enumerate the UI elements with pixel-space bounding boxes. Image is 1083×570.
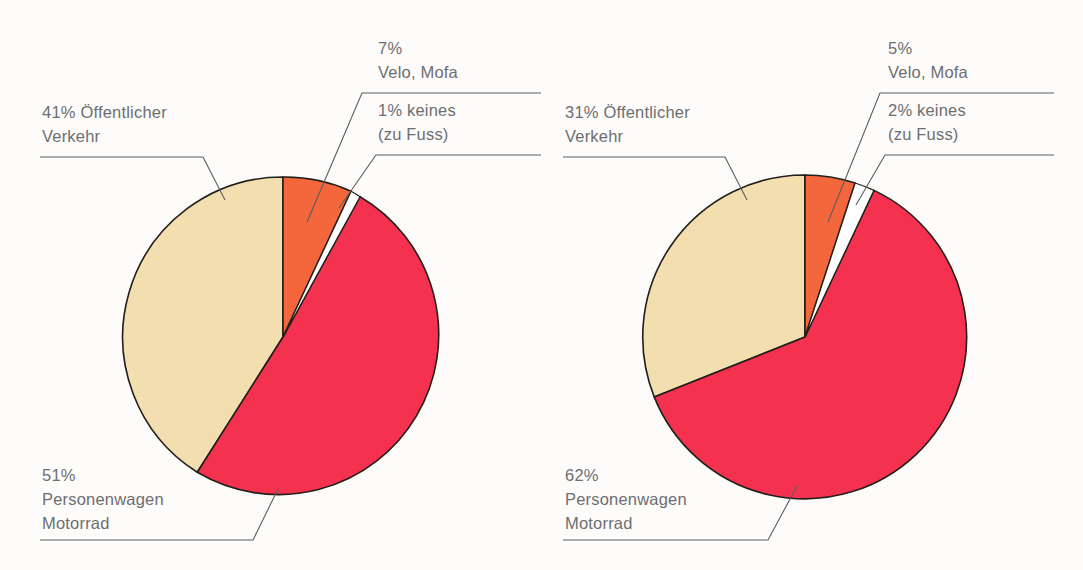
- figure-canvas: 41% Öffentlicher Verkehr 7% Velo, Mofa 1…: [0, 0, 1083, 570]
- label-personenwagen-name-right: Personenwagen: [565, 490, 687, 508]
- pie-chart-left: 41% Öffentlicher Verkehr 7% Velo, Mofa 1…: [40, 39, 541, 540]
- label-keines-name-right: (zu Fuss): [888, 125, 959, 143]
- label-velo-mofa-name-left: Velo, Mofa: [378, 63, 459, 81]
- label-oeffentlicher-verkehr-pct-left: 41% Öffentlicher: [42, 103, 167, 121]
- leader-line-keines-left: [339, 155, 541, 208]
- label-velo-mofa-pct-left: 7%: [378, 39, 402, 57]
- callout-keines-zu-fuss-right: 2% keines (zu Fuss): [856, 101, 1054, 205]
- label-keines-pct-left: 1% keines: [378, 101, 456, 119]
- leader-line-oeffentlicher-verkehr-left: [40, 157, 225, 200]
- label-personenwagen-pct-left: 51%: [42, 466, 76, 484]
- leader-line-oeffentlicher-verkehr-right: [563, 157, 747, 200]
- label-oeffentlicher-verkehr-pct-right: 31% Öffentlicher: [565, 103, 690, 121]
- label-velo-mofa-pct-right: 5%: [888, 39, 912, 57]
- callout-oeffentlicher-verkehr-right: 31% Öffentlicher Verkehr: [563, 103, 747, 200]
- label-velo-mofa-name-right: Velo, Mofa: [888, 63, 969, 81]
- label-motorrad-name-left: Motorrad: [42, 514, 110, 532]
- label-motorrad-name-right: Motorrad: [565, 514, 633, 532]
- label-oeffentlicher-verkehr-name-left: Verkehr: [42, 127, 101, 145]
- callout-oeffentlicher-verkehr-left: 41% Öffentlicher Verkehr: [40, 103, 225, 200]
- pie-chart-right: 31% Öffentlicher Verkehr 5% Velo, Mofa 2…: [563, 39, 1054, 540]
- label-personenwagen-pct-right: 62%: [565, 466, 599, 484]
- pie-chart-figure: 41% Öffentlicher Verkehr 7% Velo, Mofa 1…: [0, 0, 1083, 570]
- label-oeffentlicher-verkehr-name-right: Verkehr: [565, 127, 624, 145]
- label-keines-name-left: (zu Fuss): [378, 125, 449, 143]
- label-keines-pct-right: 2% keines: [888, 101, 966, 119]
- callout-keines-zu-fuss-left: 1% keines (zu Fuss): [339, 101, 541, 208]
- label-personenwagen-name-left: Personenwagen: [42, 490, 164, 508]
